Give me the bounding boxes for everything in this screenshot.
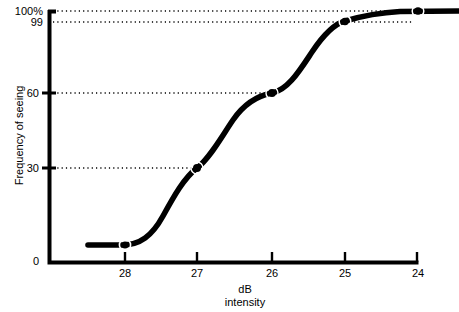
y-tick-label-0: 0	[0, 256, 39, 267]
frequency-of-seeing-chart: 100% 99 60 30 0 28 27 26 25 24 Frequency…	[0, 0, 459, 312]
axis-spines	[48, 10, 419, 263]
y-tick-label-99: 99	[0, 17, 43, 28]
data-point-27	[193, 164, 201, 172]
y-axis-label: Frequency of seeing	[14, 56, 25, 216]
data-curve	[88, 11, 459, 245]
data-point-28	[122, 242, 129, 249]
frequency-of-seeing-curve	[88, 11, 459, 245]
gridlines	[53, 11, 459, 168]
x-tick-label-26: 26	[258, 268, 286, 279]
x-tick-label-28: 28	[111, 268, 139, 279]
plot-area	[0, 0, 459, 312]
x-axis-label: dB intensity	[155, 283, 335, 309]
x-tick-label-25: 25	[331, 268, 359, 279]
data-point-25	[341, 18, 349, 26]
x-tick-label-27: 27	[183, 268, 211, 279]
x-tick-label-24: 24	[404, 268, 432, 279]
data-point-24	[414, 7, 422, 15]
x-axis-label-line2: intensity	[155, 296, 335, 309]
data-point-26	[268, 89, 276, 97]
x-axis-label-line1: dB	[155, 283, 335, 296]
